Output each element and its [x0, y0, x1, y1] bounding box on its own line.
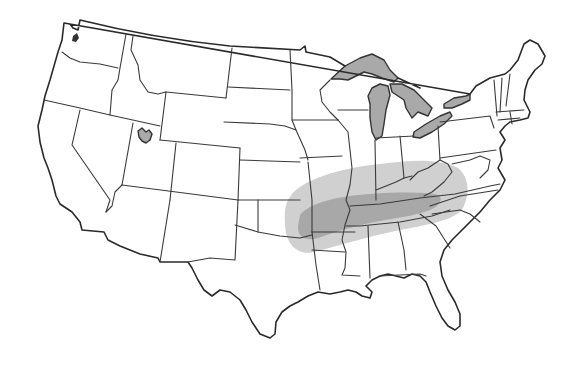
state-boundaries	[44, 34, 524, 290]
lake-michigan	[368, 84, 390, 140]
lake-huron	[390, 84, 432, 118]
lake-ontario	[444, 94, 470, 108]
great-salt-lake	[138, 128, 152, 143]
us-map	[0, 0, 576, 372]
lake-superior	[331, 54, 398, 82]
map-container	[0, 0, 576, 372]
lake-erie	[413, 112, 452, 138]
puget-sound	[72, 33, 79, 42]
us-outline	[38, 20, 545, 338]
